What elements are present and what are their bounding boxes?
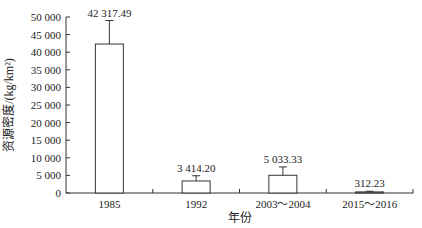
bar xyxy=(356,192,384,193)
y-tick-label: 30 000 xyxy=(31,81,62,93)
y-tick-label: 35 000 xyxy=(31,64,62,76)
y-tick-label: 0 xyxy=(56,187,62,199)
y-tick-label: 20 000 xyxy=(31,117,62,129)
value-label: 312.23 xyxy=(355,177,386,189)
x-tick-label: 2015～2016 xyxy=(342,198,398,210)
bar-group: 312.232015～2016 xyxy=(342,177,398,210)
value-label: 3 414.20 xyxy=(177,162,216,174)
bar xyxy=(269,175,297,193)
y-tick-label: 45 000 xyxy=(31,29,62,41)
y-tick-label: 10 000 xyxy=(31,152,62,164)
bar-group: 42 317.491985 xyxy=(87,7,132,210)
bar-group: 5 033.332003～2004 xyxy=(255,153,311,210)
x-tick-label: 2003～2004 xyxy=(255,198,311,210)
y-tick-label: 15 000 xyxy=(31,134,62,146)
y-tick-label: 25 000 xyxy=(31,99,62,111)
bar xyxy=(95,44,123,193)
y-tick-label: 5 000 xyxy=(36,169,61,181)
bar-group: 3 414.201992 xyxy=(177,162,216,210)
y-axis: 05 00010 00015 00020 00025 00030 00035 0… xyxy=(31,11,70,199)
bar xyxy=(182,181,210,193)
bar-chart: 05 00010 00015 00020 00025 00030 00035 0… xyxy=(0,0,422,228)
y-axis-label: 资源密度/(kg/km²) xyxy=(1,58,16,152)
x-tick-label: 1992 xyxy=(185,198,207,210)
y-tick-label: 40 000 xyxy=(31,46,62,58)
chart-canvas: 05 00010 00015 00020 00025 00030 00035 0… xyxy=(0,0,422,228)
x-tick-label: 1985 xyxy=(98,198,121,210)
value-label: 42 317.49 xyxy=(87,7,132,19)
bars: 42 317.4919853 414.2019925 033.332003～20… xyxy=(87,7,397,210)
x-axis-label: 年份 xyxy=(228,211,252,225)
value-label: 5 033.33 xyxy=(264,153,303,165)
y-tick-label: 50 000 xyxy=(31,11,62,23)
